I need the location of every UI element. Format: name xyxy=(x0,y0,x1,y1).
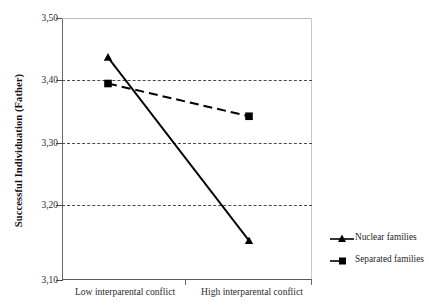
data-point-marker-0-0 xyxy=(104,53,112,61)
data-point-marker-1-0 xyxy=(104,80,112,88)
series-line-1 xyxy=(108,84,249,117)
triangle-marker-icon xyxy=(330,231,354,243)
series-line-0 xyxy=(108,57,249,240)
legend-label-nuclear-families: Nuclear families xyxy=(355,232,417,242)
chart-legend: Nuclear families Separated families xyxy=(330,226,429,270)
legend-item-separated-families: Separated families xyxy=(330,248,429,270)
chart-figure: Successful Individuation (Father) 3,50 3… xyxy=(0,0,429,306)
square-marker-icon xyxy=(330,253,354,265)
legend-item-nuclear-families: Nuclear families xyxy=(330,226,429,248)
legend-label-separated-families: Separated families xyxy=(355,254,424,264)
data-point-marker-1-1 xyxy=(245,112,253,120)
